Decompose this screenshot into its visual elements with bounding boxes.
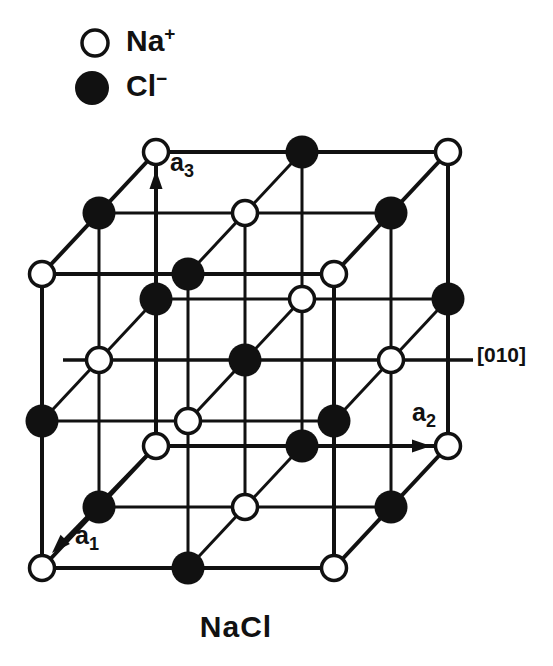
cl-atom	[172, 258, 205, 291]
na-atom	[144, 140, 169, 165]
axis-arrowhead-a3	[150, 170, 163, 189]
cl-atom	[286, 136, 319, 169]
na-atom	[233, 495, 258, 520]
cl-atom	[375, 197, 408, 230]
cl-atom	[26, 405, 59, 438]
crystal-lattice-drawing	[0, 0, 553, 666]
legend-label-na: Na+	[126, 24, 175, 56]
axis-label-a1: a1	[75, 523, 99, 553]
na-atom	[176, 409, 201, 434]
na-charge: +	[164, 23, 175, 44]
na-atom	[322, 262, 347, 287]
na-atom	[30, 556, 55, 581]
axis-label-a3: a3	[170, 150, 194, 180]
direction-label-010: [010]	[477, 344, 526, 365]
cl-charge: −	[156, 68, 167, 89]
cl-atom	[83, 197, 116, 230]
nacl-structure-figure: Na+ Cl− a1 a2 a3 [010] NaCl	[0, 0, 553, 666]
cl-atom	[83, 491, 116, 524]
na-atom	[436, 140, 461, 165]
cl-atom	[318, 405, 351, 438]
na-symbol: Na	[126, 24, 164, 57]
na-atom	[233, 201, 258, 226]
cl-atom	[229, 344, 262, 377]
cl-atom	[172, 552, 205, 585]
cl-atom	[286, 430, 319, 463]
axis-arrowhead-a2	[412, 440, 431, 453]
na-atom	[144, 434, 169, 459]
cl-atom	[375, 491, 408, 524]
cl-atom	[432, 283, 465, 316]
na-atom	[322, 556, 347, 581]
na-atom	[290, 287, 315, 312]
legend-open-circle-icon	[82, 30, 108, 56]
na-atom	[436, 434, 461, 459]
na-atom	[379, 348, 404, 373]
axis-label-a2: a2	[412, 400, 436, 430]
cl-atom	[140, 283, 173, 316]
figure-caption: NaCl	[118, 612, 354, 642]
cl-symbol: Cl	[126, 69, 156, 102]
legend-filled-circle-icon	[75, 71, 109, 105]
na-atom	[30, 262, 55, 287]
legend-label-cl: Cl−	[126, 69, 167, 101]
na-atom	[87, 348, 112, 373]
